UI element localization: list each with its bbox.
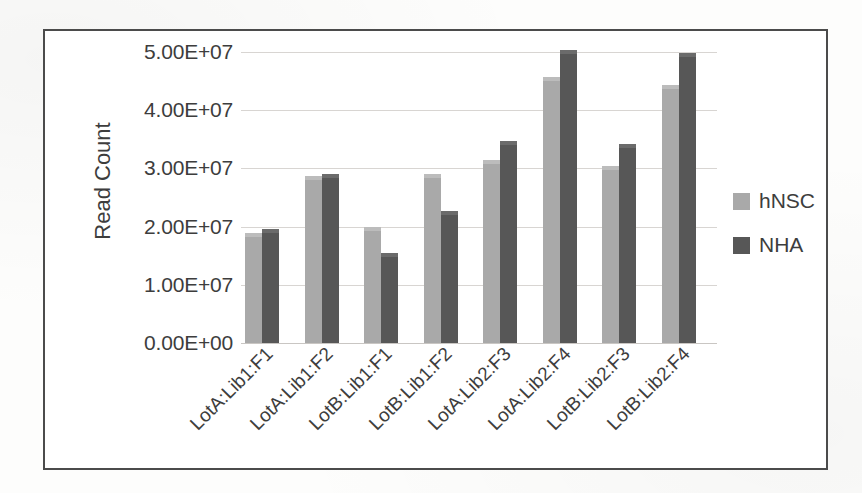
- bar-nha-lota-lib1-f2: [322, 174, 339, 343]
- bar-hnsc-lota-lib1-f1: [245, 233, 262, 343]
- bar-hnsc-lota-lib2-f3: [483, 160, 500, 343]
- bar-hnsc-lotb-lib2-f4: [662, 85, 679, 343]
- bar-front-face: [560, 54, 577, 343]
- y-axis-tick-label: 5.00E+07: [144, 40, 233, 64]
- y-axis-tick-label: 3.00E+07: [144, 156, 233, 180]
- bar-front-face: [679, 57, 696, 343]
- bar-group: [305, 52, 339, 343]
- legend-label-nha: NHA: [759, 233, 803, 257]
- bar-front-face: [500, 145, 517, 343]
- bar-front-face: [441, 215, 458, 343]
- bar-nha-lotb-lib2-f3: [619, 144, 636, 343]
- y-axis-tick-label: 2.00E+07: [144, 215, 233, 239]
- legend-item-hnsc: hNSC: [733, 189, 829, 213]
- bar-front-face: [662, 89, 679, 343]
- bar-hnsc-lotb-lib2-f3: [602, 166, 619, 343]
- bar-nha-lotb-lib2-f4: [679, 53, 696, 343]
- bar-group: [483, 52, 517, 343]
- plot-area: [241, 52, 717, 343]
- bar-front-face: [619, 148, 636, 343]
- bar-group: [364, 52, 398, 343]
- legend-swatch-nha: [733, 237, 750, 254]
- bar-group: [662, 52, 696, 343]
- x-axis-tick-label: LotA:Lib1:F1: [50, 343, 278, 493]
- bar-front-face: [424, 178, 441, 343]
- bar-group: [424, 52, 458, 343]
- bar-front-face: [381, 257, 398, 343]
- bar-front-face: [305, 180, 322, 343]
- bar-front-face: [262, 233, 279, 343]
- bar-hnsc-lotb-lib1-f1: [364, 227, 381, 343]
- bar-nha-lota-lib2-f4: [560, 50, 577, 343]
- chart-legend: hNSCNHA: [733, 189, 829, 277]
- bar-hnsc-lotb-lib1-f2: [424, 174, 441, 343]
- legend-label-hnsc: hNSC: [759, 189, 815, 213]
- y-axis-tick-labels: 0.00E+001.00E+072.00E+073.00E+074.00E+07…: [123, 52, 239, 343]
- bar-front-face: [364, 231, 381, 343]
- y-axis-title-text: Read Count: [90, 122, 116, 239]
- y-axis-tick-label: 4.00E+07: [144, 98, 233, 122]
- bar-nha-lota-lib1-f1: [262, 229, 279, 343]
- bar-front-face: [602, 170, 619, 343]
- legend-swatch-hnsc: [733, 193, 750, 210]
- bar-hnsc-lota-lib1-f2: [305, 176, 322, 343]
- legend-item-nha: NHA: [733, 233, 829, 257]
- y-axis-tick-label: 0.00E+00: [144, 331, 233, 355]
- bar-hnsc-lota-lib2-f4: [543, 77, 560, 343]
- x-axis-tick-labels: LotA:Lib1:F1LotA:Lib1:F2LotB:Lib1:F1LotB…: [241, 343, 717, 468]
- chart-frame: Read Count 0.00E+001.00E+072.00E+073.00E…: [43, 29, 828, 470]
- bar-front-face: [322, 178, 339, 343]
- bar-nha-lotb-lib1-f2: [441, 211, 458, 343]
- y-axis-title: Read Count: [83, 91, 123, 271]
- bar-nha-lota-lib2-f3: [500, 141, 517, 343]
- bar-front-face: [483, 164, 500, 343]
- bar-group: [602, 52, 636, 343]
- bar-nha-lotb-lib1-f1: [381, 253, 398, 343]
- bar-front-face: [245, 237, 262, 343]
- y-axis-tick-label: 1.00E+07: [144, 273, 233, 297]
- bar-group: [543, 52, 577, 343]
- bar-group: [245, 52, 279, 343]
- bar-front-face: [543, 81, 560, 343]
